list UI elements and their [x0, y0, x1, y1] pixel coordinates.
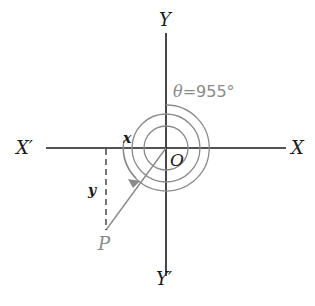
label-y-bottom: Y′ [156, 268, 172, 289]
label-x-right: X [289, 137, 305, 158]
angle-diagram: Y Y′ X X′ O P x y θ=955° [0, 0, 315, 306]
label-y-segment: y [87, 182, 97, 198]
label-x-segment: x [122, 130, 132, 146]
label-origin: O [170, 150, 184, 170]
label-angle: θ=955° [173, 82, 235, 101]
terminal-ray [106, 148, 166, 230]
label-y-top: Y [159, 9, 173, 30]
angle-value: =955° [183, 82, 235, 101]
label-x-left: X′ [14, 137, 33, 158]
label-point-p: P [97, 233, 111, 254]
angle-symbol: θ [173, 82, 183, 101]
